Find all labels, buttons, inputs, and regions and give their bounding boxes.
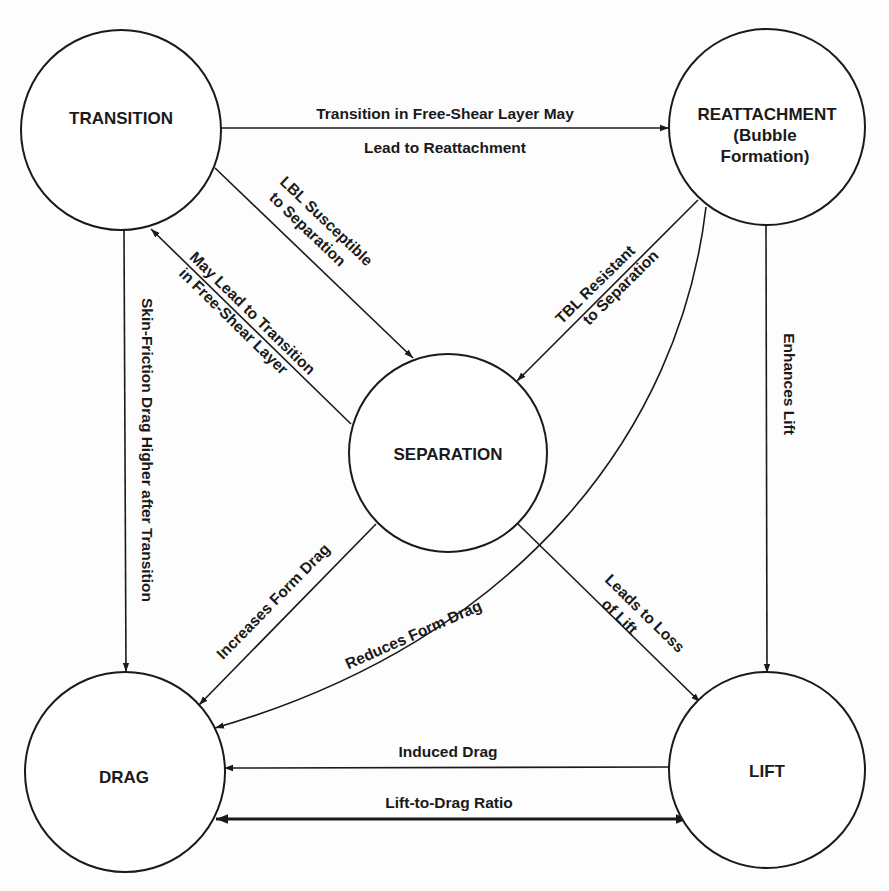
edge-label-induced-drag: Induced Drag — [398, 743, 497, 760]
node-reattachment-label-line1: REATTACHMENT — [697, 105, 837, 124]
node-transition-label: TRANSITION — [69, 109, 173, 128]
node-drag: DRAG — [25, 672, 225, 872]
edge-label-lift-to-drag-ratio: Lift-to-Drag Ratio — [385, 794, 512, 811]
edge-label-increases-form-drag: Increases Form Drag — [213, 540, 333, 662]
edge-reattachment-to-separation: TBL Resistant to Separation — [517, 200, 698, 381]
node-reattachment: REATTACHMENT (Bubble Formation) — [669, 29, 865, 225]
node-reattachment-label-line2: (Bubble — [733, 126, 796, 145]
flow-diagram: Transition in Free-Shear Layer May Lead … — [0, 0, 889, 891]
node-lift-label: LIFT — [749, 762, 785, 781]
node-drag-label: DRAG — [99, 768, 149, 787]
edge-label-transition-reattachment-line2: Lead to Reattachment — [364, 139, 526, 156]
edge-reattachment-to-lift: Enhances Lift — [766, 226, 798, 673]
edge-label-transition-reattachment-line1: Transition in Free-Shear Layer May — [316, 105, 574, 122]
edge-transition-to-reattachment: Transition in Free-Shear Layer May Lead … — [221, 105, 669, 156]
node-separation-label: SEPARATION — [394, 445, 503, 464]
edge-lift-to-drag: Induced Drag — [224, 743, 677, 768]
node-lift: LIFT — [669, 672, 865, 868]
edge-label-may-lead-line1: May Lead to Transition — [187, 248, 319, 377]
diagram-canvas: Transition in Free-Shear Layer May Lead … — [0, 0, 889, 891]
edge-label-skin-friction: Skin-Friction Drag Higher after Transiti… — [139, 298, 156, 602]
edge-lift-drag-ratio: Lift-to-Drag Ratio — [216, 794, 688, 819]
edge-separation-to-lift: Leads to Loss of Lift — [518, 524, 700, 702]
edge-separation-to-transition: May Lead to Transition in Free-Shear Lay… — [151, 229, 351, 424]
edge-transition-to-drag: Skin-Friction Drag Higher after Transiti… — [124, 230, 156, 672]
edge-label-reduces-form-drag: Reduces Form Drag — [343, 597, 484, 672]
node-separation: SEPARATION — [349, 354, 547, 552]
node-transition-circle — [21, 30, 221, 230]
node-transition: TRANSITION — [21, 30, 221, 230]
edge-label-enhances-lift: Enhances Lift — [781, 333, 798, 435]
node-reattachment-label-line3: Formation) — [721, 147, 810, 166]
